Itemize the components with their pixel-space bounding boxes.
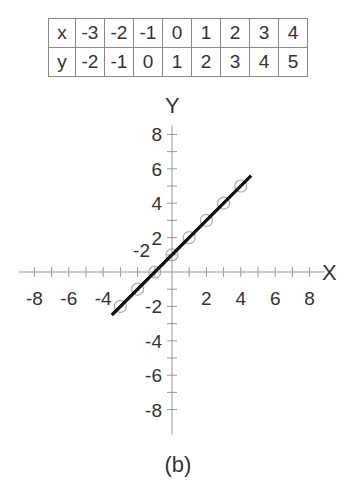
x-tick-label: 4 — [236, 288, 247, 309]
y-tick-label: -2 — [145, 296, 162, 317]
y-tick-label: 8 — [151, 124, 162, 145]
x-tick-label: 2 — [201, 288, 212, 309]
y-tick-label: -6 — [145, 365, 162, 386]
x-tick-label: 6 — [270, 288, 281, 309]
coordinate-plane: -8-6-424688642-2-4-6-8-2 X Y — [0, 0, 347, 494]
x-axis-label: X — [322, 260, 337, 285]
y-tick-label: -4 — [145, 331, 162, 352]
y-tick-label: 4 — [151, 193, 162, 214]
y-tick-label: -8 — [145, 400, 162, 421]
figure-caption: (b) — [0, 452, 347, 478]
y-axis-label: Y — [165, 93, 180, 118]
x-tick-label: 8 — [304, 288, 315, 309]
extra-label: -2 — [133, 240, 150, 261]
axes — [19, 125, 325, 435]
y-tick-label: 6 — [151, 159, 162, 180]
x-tick-label: -6 — [60, 288, 77, 309]
x-tick-label: -4 — [95, 288, 112, 309]
y-tick-label: 2 — [151, 228, 162, 249]
x-tick-label: -8 — [26, 288, 43, 309]
